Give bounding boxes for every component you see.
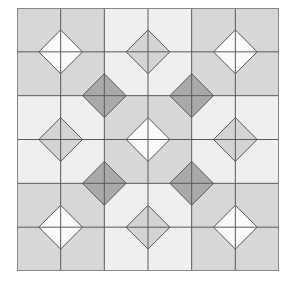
quilt-pattern-graphic [17,8,279,271]
quilt-diagram [17,8,279,271]
